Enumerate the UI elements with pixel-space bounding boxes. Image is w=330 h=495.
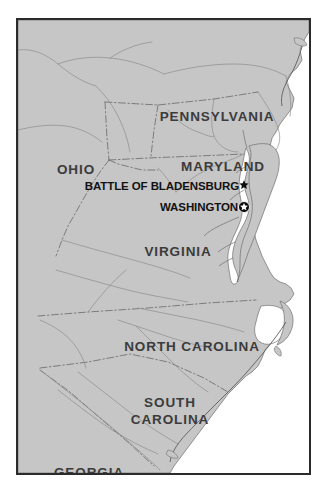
state-label-ohio: OHIO: [57, 163, 95, 177]
map-figure: PENNSYLVANIA OHIO MARYLAND VIRGINIA NORT…: [0, 0, 330, 495]
state-label-south-carolina: SOUTH CAROLINA: [131, 396, 209, 426]
capital-circled-star-icon: [238, 201, 251, 214]
state-label-maryland: MARYLAND: [181, 160, 265, 174]
state-label-south-carolina-line1: SOUTH: [131, 396, 209, 410]
state-label-pennsylvania: PENNSYLVANIA: [160, 110, 275, 124]
poi-label-washington: WASHINGTON: [160, 202, 238, 214]
map-frame: PENNSYLVANIA OHIO MARYLAND VIRGINIA NORT…: [16, 18, 311, 475]
battle-star-icon: [239, 180, 250, 191]
poi-label-battle-of-bladensburg: BATTLE OF BLADENSBURG: [85, 181, 239, 193]
state-label-north-carolina: NORTH CAROLINA: [124, 340, 260, 354]
state-label-georgia: GEORGIA: [54, 466, 124, 475]
state-label-virginia: VIRGINIA: [144, 245, 211, 259]
state-label-south-carolina-line2: CAROLINA: [131, 413, 209, 427]
